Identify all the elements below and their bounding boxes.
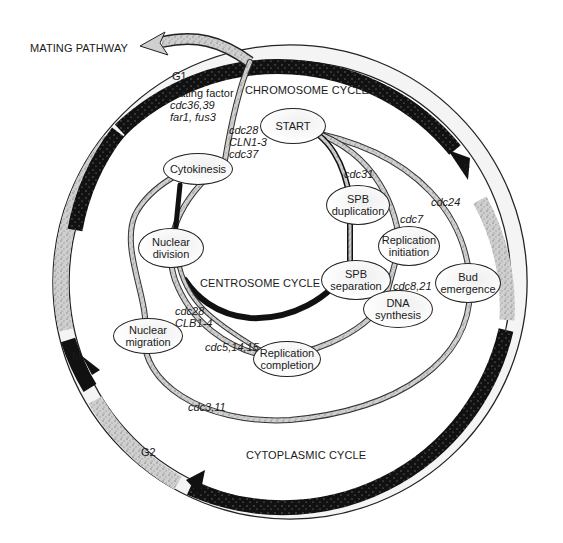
gene-label-far1-fus3: far1, fus3 [170, 111, 216, 123]
gene-label-cln1-3: CLN1-3 [229, 136, 267, 148]
node-nuclear-division-line1: Nuclear [152, 236, 190, 248]
node-cytokinesis-label: Cytokinesis [170, 163, 226, 175]
node-bud-emergence-line1: Bud [458, 271, 478, 283]
node-replication-completion: Replication completion [253, 341, 321, 377]
node-nuclear-migration-line1: Nuclear [129, 324, 167, 336]
node-spb-duplication-line2: duplication [332, 205, 385, 217]
node-nuclear-migration: Nuclear migration [113, 318, 183, 354]
mating-pathway-arrow [140, 32, 250, 62]
mating-factor-label: mating factor [170, 87, 234, 99]
node-spb-separation-line2: separation [330, 280, 381, 292]
node-replication-completion-line1: Replication [260, 347, 314, 359]
node-dna-synthesis: DNA synthesis [363, 290, 433, 328]
centrosome-cycle-label: CENTROSOME CYCLE [200, 277, 320, 289]
node-replication-completion-line2: completion [260, 359, 313, 371]
node-dna-synthesis-line2: synthesis [375, 309, 421, 321]
gene-label-cdc37: cdc37 [229, 148, 258, 160]
node-bud-emergence-line2: emergence [440, 283, 495, 295]
node-nuclear-division: Nuclear division [138, 228, 204, 268]
node-replication-initiation-line1: Replication [382, 234, 436, 246]
gene-label-cdc28-b: cdc28 [175, 305, 204, 317]
gene-label-cdc36-39: cdc36,39 [170, 99, 215, 111]
phase-label-m: M [72, 350, 81, 362]
node-spb-separation-line1: SPB [345, 268, 367, 280]
chromosome-cycle-label: CHROMOSOME CYCLE [245, 84, 369, 96]
gene-label-cdc3-11: cdc3,11 [188, 401, 226, 413]
node-nuclear-division-line2: division [153, 248, 190, 260]
gene-label-cdc28: cdc28 [229, 124, 258, 136]
node-spb-duplication-line1: SPB [347, 193, 369, 205]
node-dna-synthesis-line1: DNA [386, 297, 409, 309]
gene-label-cdc31: cdc31 [344, 168, 373, 180]
node-replication-initiation-line2: initiation [389, 246, 429, 258]
gene-label-clb1-4: CLB1-4 [175, 317, 212, 329]
node-nuclear-migration-line2: migration [125, 336, 170, 348]
phase-label-g2: G2 [141, 446, 156, 458]
phase-label-g1: G1 [172, 70, 187, 82]
node-bud-emergence: Bud emergence [435, 263, 501, 303]
node-spb-duplication: SPB duplication [326, 185, 390, 225]
node-start: START [260, 108, 326, 144]
cytoplasmic-cycle-label: CYTOPLASMIC CYCLE [246, 449, 366, 461]
node-replication-initiation: Replication initiation [378, 226, 440, 266]
node-start-label: START [275, 120, 310, 132]
node-cytokinesis: Cytokinesis [163, 153, 233, 185]
mating-pathway-label: MATING PATHWAY [30, 42, 128, 54]
gene-label-cdc5-14-15: cdc5,14,15 [205, 341, 259, 353]
gene-label-cdc24: cdc24 [431, 196, 460, 208]
gene-label-cdc7: cdc7 [400, 213, 423, 225]
